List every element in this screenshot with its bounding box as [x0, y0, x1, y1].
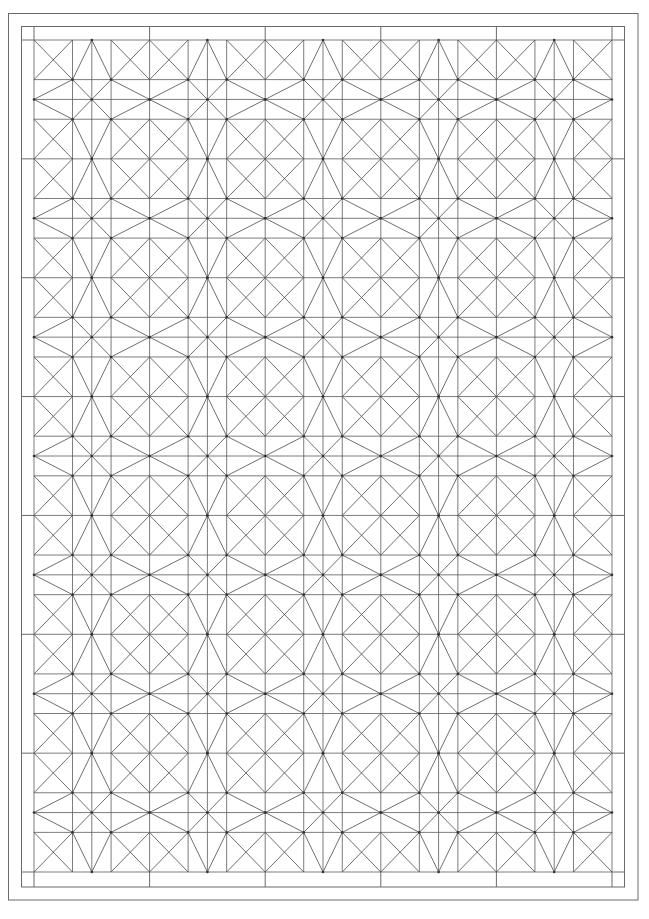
- vertex-dot: [457, 673, 460, 676]
- kite-segment: [150, 436, 189, 456]
- kite-segment: [535, 753, 554, 793]
- vertex-dot: [91, 752, 94, 755]
- vertex-dot: [322, 871, 325, 874]
- vertex-dot: [71, 118, 74, 121]
- vertex-dot: [457, 475, 460, 478]
- vertex-dot: [187, 118, 190, 121]
- kite-segment: [207, 278, 226, 318]
- kite-segment: [439, 357, 458, 397]
- kite-segment: [111, 674, 150, 694]
- vertex-dot: [437, 871, 440, 874]
- vertex-dot: [110, 554, 113, 557]
- vertex-dot: [572, 435, 575, 438]
- kite-segment: [265, 198, 304, 218]
- kite-segment: [150, 456, 189, 476]
- vertex-dot: [341, 237, 344, 240]
- vertex-dot: [572, 712, 575, 715]
- vertex-dot: [206, 455, 209, 458]
- vertex-dot: [553, 336, 556, 339]
- vertex-dot: [437, 158, 440, 161]
- vertex-dot: [418, 673, 421, 676]
- vertex-dot: [91, 455, 94, 458]
- kite-segment: [554, 832, 573, 872]
- kite-segment: [554, 159, 573, 199]
- vertex-dot: [33, 692, 36, 695]
- vertex-dot: [495, 98, 498, 101]
- kite-segment: [554, 357, 573, 397]
- kite-segment: [227, 456, 266, 476]
- kite-segment: [227, 198, 266, 218]
- kite-segment: [304, 714, 323, 754]
- vertex-dot: [322, 574, 325, 577]
- vertex-dot: [572, 831, 575, 834]
- kite-segment: [188, 634, 207, 674]
- vertex-dot: [148, 336, 151, 339]
- vertex-dot: [110, 118, 113, 121]
- vertex-dot: [457, 554, 460, 557]
- kite-segment: [323, 595, 342, 635]
- kite-segment: [92, 40, 111, 80]
- kite-segment: [535, 476, 554, 516]
- vertex-dot: [206, 871, 209, 874]
- vertex-dot: [187, 831, 190, 834]
- kite-segment: [73, 278, 92, 318]
- kite-segment: [150, 337, 189, 357]
- kite-segment: [34, 317, 73, 337]
- vertex-dot: [225, 435, 228, 438]
- vertex-dot: [110, 197, 113, 200]
- vertex-dot: [187, 78, 190, 81]
- vertex-dot: [553, 158, 556, 161]
- kite-segment: [573, 456, 612, 476]
- kite-segment: [535, 397, 554, 437]
- vertex-dot: [418, 831, 421, 834]
- kite-segment: [535, 515, 554, 555]
- vertex-dot: [553, 98, 556, 101]
- vertex-dot: [534, 435, 537, 438]
- vertex-dot: [341, 475, 344, 478]
- vertex-dot: [322, 395, 325, 398]
- vertex-dot: [553, 395, 556, 398]
- vertex-dot: [457, 78, 460, 81]
- kite-segment: [573, 99, 612, 119]
- kite-segment: [419, 357, 438, 397]
- vertex-dot: [148, 574, 151, 577]
- kite-segment: [458, 436, 497, 456]
- vertex-dot: [187, 197, 190, 200]
- kite-segment: [150, 555, 189, 575]
- kite-segment: [92, 119, 111, 159]
- vertex-dot: [302, 197, 305, 200]
- kite-segment: [304, 595, 323, 635]
- vertex-dot: [206, 633, 209, 636]
- vertex-dot: [457, 316, 460, 319]
- kite-segment: [496, 436, 535, 456]
- vertex-dot: [534, 237, 537, 240]
- vertex-dot: [457, 712, 460, 715]
- vertex-dot: [553, 276, 556, 279]
- kite-segment: [458, 198, 497, 218]
- vertex-dot: [302, 118, 305, 121]
- vertex-dot: [380, 574, 383, 577]
- vertex-dot: [418, 237, 421, 240]
- kite-segment: [554, 634, 573, 674]
- vertex-dot: [71, 593, 74, 596]
- kite-segment: [573, 436, 612, 456]
- kite-segment: [554, 515, 573, 555]
- vertex-dot: [206, 811, 209, 814]
- vertex-dot: [206, 217, 209, 220]
- vertex-dot: [611, 692, 614, 695]
- vertex-dot: [437, 98, 440, 101]
- kite-segment: [496, 793, 535, 813]
- kite-segment: [535, 278, 554, 318]
- kite-segment: [34, 456, 73, 476]
- vertex-dot: [457, 831, 460, 834]
- kite-segment: [265, 80, 304, 100]
- vertex-dot: [341, 316, 344, 319]
- kite-segment: [323, 634, 342, 674]
- vertex-dot: [437, 692, 440, 695]
- vertex-dot: [91, 811, 94, 814]
- vertex-dot: [264, 217, 267, 220]
- kite-segment: [34, 99, 73, 119]
- kite-segment: [496, 674, 535, 694]
- vertex-dot: [437, 395, 440, 398]
- vertex-dot: [572, 673, 575, 676]
